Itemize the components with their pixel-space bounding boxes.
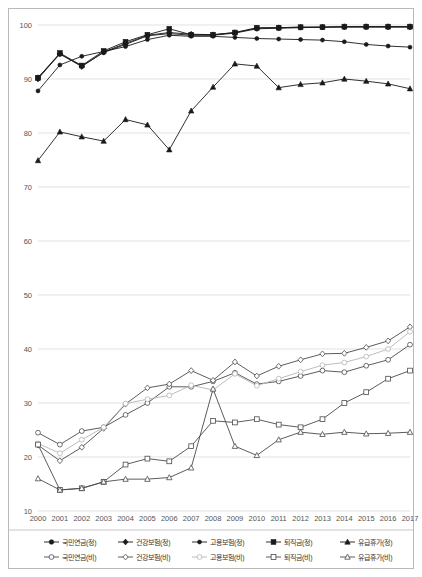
data-point-marker	[49, 555, 54, 560]
data-point-marker	[57, 451, 62, 456]
series-national-pension-regular	[36, 25, 413, 80]
data-point-marker	[189, 32, 194, 37]
data-point-marker	[298, 369, 303, 374]
data-point-marker	[35, 476, 40, 481]
data-point-marker	[145, 32, 150, 37]
y-tick-label: 80	[24, 129, 32, 138]
data-point-marker	[57, 442, 62, 447]
y-tick-label: 60	[24, 237, 32, 246]
data-point-marker	[364, 354, 369, 359]
legend-item-national-pension-nonregular[interactable]: 국민연금(비)	[44, 553, 97, 562]
series-severance-pay-nonregular	[36, 368, 413, 492]
data-point-marker	[123, 412, 128, 417]
legend-item-health-insurance-nonregular[interactable]: 건강보험(비)	[118, 553, 171, 562]
legend-label: 건강보험(정)	[136, 538, 171, 547]
data-point-marker	[255, 37, 259, 41]
data-point-marker	[101, 49, 106, 54]
legend-item-employment-insurance-nonregular[interactable]: 고용보험(비)	[192, 553, 245, 562]
data-point-marker	[342, 401, 347, 406]
data-point-marker	[57, 458, 62, 464]
legend-item-paid-leave-regular[interactable]: 유급휴가(정)	[340, 538, 393, 547]
data-point-marker	[145, 456, 150, 461]
data-point-marker	[79, 437, 84, 442]
series-line	[38, 27, 410, 77]
legend-item-health-insurance-regular[interactable]: 건강보험(정)	[118, 538, 171, 547]
legend-item-severance-pay-nonregular[interactable]: 퇴직금(비)	[266, 553, 313, 562]
data-point-marker	[276, 376, 281, 381]
data-point-marker	[386, 24, 391, 29]
chart-container: 1020304050607080901002000200120022003200…	[0, 0, 422, 577]
data-point-marker	[123, 401, 128, 406]
data-point-marker	[342, 370, 347, 375]
legend-label: 퇴직금(비)	[284, 553, 313, 562]
x-tick-label: 2006	[161, 514, 178, 523]
data-point-marker	[167, 33, 171, 37]
series-employment-insurance-regular	[36, 33, 412, 93]
data-point-marker	[386, 44, 390, 48]
series-line	[38, 35, 410, 91]
data-point-marker	[408, 329, 413, 334]
data-point-marker	[408, 45, 412, 49]
data-point-marker	[320, 363, 325, 368]
data-point-marker	[57, 129, 62, 134]
legend-item-severance-pay-regular[interactable]: 퇴직금(정)	[266, 538, 313, 547]
data-point-marker	[49, 540, 54, 545]
data-point-marker	[386, 357, 391, 362]
y-tick-label: 40	[24, 345, 32, 354]
legend-label: 퇴직금(정)	[284, 538, 313, 547]
series-line	[38, 327, 410, 461]
legend-item-national-pension-regular[interactable]: 국민연금(정)	[44, 538, 97, 547]
legend-item-employment-insurance-regular[interactable]: 고용보험(정)	[192, 538, 245, 547]
data-point-marker	[189, 444, 194, 449]
data-point-marker	[254, 25, 259, 30]
legend-label: 고용보험(비)	[210, 553, 245, 562]
data-point-marker	[320, 368, 325, 373]
data-point-marker	[276, 25, 281, 30]
y-tick-label: 50	[24, 291, 32, 300]
data-point-marker	[145, 397, 150, 402]
legend-label: 국민연금(정)	[62, 538, 97, 547]
y-tick-label: 100	[19, 21, 32, 30]
series-line	[38, 64, 410, 161]
legend-label: 국민연금(비)	[62, 553, 97, 562]
x-tick-label: 2009	[227, 514, 244, 523]
x-tick-label: 2003	[95, 514, 112, 523]
y-tick-label: 70	[24, 183, 32, 192]
legend-label: 유급휴가(비)	[358, 553, 393, 562]
data-point-marker	[342, 360, 347, 365]
y-tick-label: 90	[24, 75, 32, 84]
data-point-marker	[320, 25, 325, 30]
data-point-marker	[320, 351, 325, 357]
data-point-marker	[198, 540, 202, 544]
x-tick-label: 2004	[117, 514, 134, 523]
legend-label: 유급휴가(정)	[358, 538, 393, 547]
line-chart: 1020304050607080901002000200120022003200…	[0, 0, 422, 577]
x-tick-label: 2011	[271, 514, 287, 523]
x-tick-label: 2000	[30, 514, 47, 523]
legend-item-paid-leave-nonregular[interactable]: 유급휴가(비)	[340, 553, 393, 562]
series-severance-pay-regular	[36, 24, 413, 80]
data-point-marker	[386, 338, 391, 344]
data-point-marker	[320, 38, 324, 42]
data-point-marker	[254, 383, 259, 388]
data-point-marker	[211, 32, 216, 37]
data-point-marker	[101, 425, 106, 430]
data-point-marker	[167, 26, 172, 31]
data-point-marker	[254, 417, 259, 422]
data-point-marker	[233, 371, 238, 376]
data-point-marker	[80, 54, 84, 58]
data-point-marker	[189, 383, 194, 388]
x-tick-label: 2017	[402, 514, 419, 523]
data-point-marker	[232, 443, 237, 448]
data-point-marker	[79, 429, 84, 434]
data-point-marker	[299, 38, 303, 42]
series-line	[38, 332, 410, 454]
data-point-marker	[276, 422, 281, 427]
data-point-marker	[145, 385, 150, 391]
data-point-marker	[123, 539, 128, 545]
data-point-marker	[364, 390, 369, 395]
series-health-insurance-nonregular	[35, 324, 412, 464]
data-point-marker	[167, 459, 172, 464]
x-tick-label: 2012	[292, 514, 309, 523]
data-point-marker	[386, 347, 391, 352]
